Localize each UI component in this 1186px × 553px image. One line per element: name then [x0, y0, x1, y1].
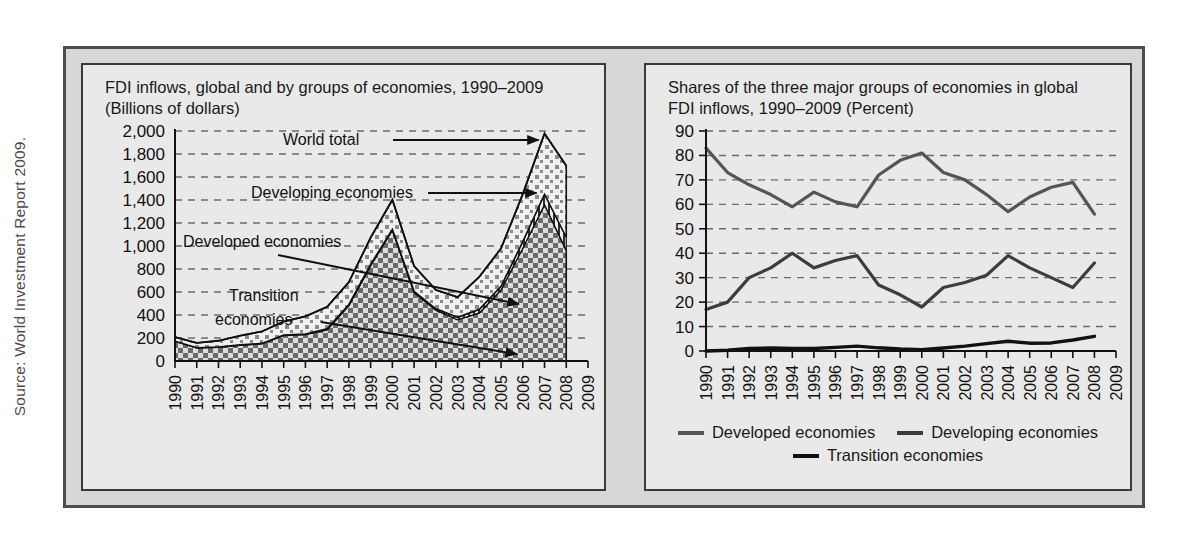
right-x-tick: 2005 — [1022, 365, 1039, 401]
left-x-tick: 2004 — [471, 375, 488, 411]
left-x-tick: 2006 — [515, 375, 532, 411]
right-x-tick: 1994 — [784, 365, 801, 401]
left-chart-svg: 02004006008001,0001,2001,4001,6001,8002,… — [83, 123, 608, 483]
right-y-tick: 60 — [675, 195, 694, 214]
legend-row-1: Developed economies Developing economies — [678, 423, 1098, 442]
right-y-tick-labels: 0102030405060708090 — [675, 123, 694, 361]
left-x-tick: 2003 — [450, 375, 467, 411]
right-chart-svg: 0102030405060708090 19901991199219931994… — [646, 123, 1134, 453]
line-transition-economies — [706, 336, 1094, 351]
legend-label-developed: Developed economies — [712, 423, 875, 442]
left-y-tick: 600 — [137, 283, 165, 302]
panel-fdi-inflows: FDI inflows, global and by groups of eco… — [81, 63, 606, 491]
legend-swatch-developed — [678, 431, 704, 435]
right-x-tick-labels: 1990199119921993199419951996199719981999… — [698, 365, 1125, 401]
right-y-tick: 20 — [675, 293, 694, 312]
right-y-tick: 0 — [685, 342, 694, 361]
left-x-tick: 1990 — [167, 375, 184, 411]
left-x-tick: 1994 — [254, 375, 271, 411]
left-y-tick: 1,200 — [122, 214, 165, 233]
right-x-tick: 2002 — [957, 365, 974, 401]
right-y-tick: 30 — [675, 269, 694, 288]
legend-item-developed[interactable]: Developed economies — [678, 423, 875, 442]
right-x-tick: 2008 — [1086, 365, 1103, 401]
legend-item-transition[interactable]: Transition economies — [793, 446, 983, 465]
left-x-tick: 2000 — [384, 375, 401, 411]
legend-label-developing: Developing economies — [931, 423, 1098, 442]
left-y-tick-labels: 02004006008001,0001,2001,4001,6001,8002,… — [122, 123, 165, 371]
anno-developing-economies: Developing economies — [251, 184, 413, 201]
right-x-tick: 1999 — [892, 365, 909, 401]
line-developing-economies — [706, 253, 1094, 309]
right-x-tick: 2001 — [935, 365, 952, 401]
right-y-tick: 70 — [675, 171, 694, 190]
left-x-tick: 1991 — [189, 375, 206, 411]
left-y-tick: 400 — [137, 306, 165, 325]
left-x-tick: 1993 — [232, 375, 249, 411]
left-x-tick: 2002 — [428, 375, 445, 411]
anno-world-total: World total — [283, 131, 359, 148]
right-x-tick: 2000 — [914, 365, 931, 401]
right-x-tick: 2007 — [1065, 365, 1082, 401]
legend-swatch-developing — [897, 431, 923, 435]
left-panel-title: FDI inflows, global and by groups of eco… — [105, 77, 543, 119]
right-y-tick: 40 — [675, 244, 694, 263]
right-line-series — [706, 148, 1094, 351]
right-axis — [706, 129, 1116, 358]
left-x-tick-labels: 1990199119921993199419951996199719981999… — [167, 375, 597, 411]
right-y-tick: 80 — [675, 146, 694, 165]
right-x-tick: 2006 — [1043, 365, 1060, 401]
legend-row-2: Transition economies — [793, 446, 983, 465]
right-y-tick: 90 — [675, 123, 694, 141]
left-chart-plot: 02004006008001,0001,2001,4001,6001,8002,… — [83, 123, 608, 483]
legend-swatch-transition — [793, 454, 819, 458]
right-x-tick: 1996 — [827, 365, 844, 401]
right-x-tick: 2009 — [1108, 365, 1125, 401]
legend-label-transition: Transition economies — [827, 446, 983, 465]
legend-item-developing[interactable]: Developing economies — [897, 423, 1098, 442]
left-x-tick: 2007 — [537, 375, 554, 411]
anno-developed-economies: Developed economies — [183, 233, 341, 250]
anno-transition-line1: Transition — [229, 287, 299, 304]
right-x-tick: 1991 — [720, 365, 737, 401]
left-y-tick: 1,000 — [122, 237, 165, 256]
left-x-tick: 1996 — [297, 375, 314, 411]
left-y-tick: 1,400 — [122, 191, 165, 210]
right-y-tick: 10 — [675, 318, 694, 337]
left-x-tick: 1992 — [210, 375, 227, 411]
panel-fdi-shares: Shares of the three major groups of econ… — [644, 63, 1132, 491]
left-y-tick: 200 — [137, 329, 165, 348]
right-chart-legend: Developed economies Developing economies… — [646, 423, 1130, 465]
left-y-tick: 2,000 — [122, 123, 165, 141]
right-x-tick: 1992 — [741, 365, 758, 401]
left-x-tick: 1995 — [276, 375, 293, 411]
left-x-tick: 2009 — [580, 375, 597, 411]
right-y-tick: 50 — [675, 220, 694, 239]
left-y-tick: 0 — [156, 352, 165, 371]
anno-transition-line2: economies — [215, 311, 292, 328]
figure-frame: FDI inflows, global and by groups of eco… — [63, 46, 1145, 508]
right-x-tick: 2004 — [1000, 365, 1017, 401]
right-gridlines — [699, 131, 1116, 351]
right-x-tick: 1998 — [871, 365, 888, 401]
left-x-tick: 1999 — [363, 375, 380, 411]
left-x-tick: 2008 — [558, 375, 575, 411]
right-x-tick: 1990 — [698, 365, 715, 401]
right-panel-title: Shares of the three major groups of econ… — [668, 77, 1078, 119]
left-y-tick: 800 — [137, 260, 165, 279]
right-x-tick: 1995 — [806, 365, 823, 401]
right-x-tick: 2003 — [979, 365, 996, 401]
left-y-tick: 1,600 — [122, 168, 165, 187]
left-y-tick: 1,800 — [122, 145, 165, 164]
left-x-tick: 2001 — [406, 375, 423, 411]
right-x-tick: 1993 — [763, 365, 780, 401]
left-x-tick: 1998 — [341, 375, 358, 411]
right-chart-plot: 0102030405060708090 19901991199219931994… — [646, 123, 1134, 453]
right-x-tick: 1997 — [849, 365, 866, 401]
left-x-tick: 1997 — [319, 375, 336, 411]
source-note: Source: World Investment Report 2009. — [0, 0, 40, 553]
left-x-tick: 2005 — [493, 375, 510, 411]
